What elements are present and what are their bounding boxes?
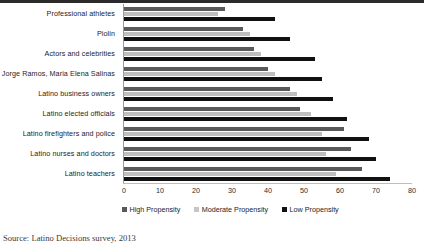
bar-group	[124, 104, 412, 124]
category-axis-labels: Professional athletesPiolinActors and ce…	[0, 4, 119, 184]
legend-swatch-high-icon	[122, 207, 127, 212]
category-label: Latino firefighters and police	[23, 130, 115, 138]
chart-figure: Professional athletesPiolinActors and ce…	[0, 0, 424, 248]
bar-high	[124, 167, 362, 171]
value-axis-ticks: 01020304050607080	[0, 186, 424, 200]
bar-low	[124, 97, 333, 101]
bar-low	[124, 137, 369, 141]
bar-low	[124, 57, 315, 61]
bar-moderate	[124, 132, 322, 136]
bar-low	[124, 117, 347, 121]
source-note: Source: Latino Decisions survey, 2013	[3, 233, 136, 243]
bar-high	[124, 67, 268, 71]
bar-moderate	[124, 152, 326, 156]
bar-low	[124, 17, 275, 21]
x-tick-label: 50	[300, 186, 308, 195]
bar-moderate	[124, 32, 250, 36]
bar-low	[124, 37, 290, 41]
legend-label: Low Propensity	[290, 205, 339, 214]
bar-moderate	[124, 92, 297, 96]
category-label: Piolin	[97, 30, 115, 38]
legend-swatch-low-icon	[282, 207, 287, 212]
bar-high	[124, 87, 290, 91]
category-label: Latino elected officials	[42, 110, 115, 118]
legend-item-moderate[interactable]: Moderate Propensity	[194, 205, 268, 214]
bar-moderate	[124, 112, 311, 116]
category-label: Latino teachers	[65, 170, 115, 178]
bar-group	[124, 24, 412, 44]
x-tick-label: 20	[192, 186, 200, 195]
category-label: Professional athletes	[47, 10, 115, 18]
bar-group	[124, 84, 412, 104]
legend-label: High Propensity	[130, 205, 181, 214]
bar-high	[124, 47, 254, 51]
top-divider	[0, 0, 424, 3]
legend-item-high[interactable]: High Propensity	[122, 205, 180, 214]
bar-low	[124, 77, 322, 81]
category-label: Actors and celebrities	[45, 50, 115, 58]
bar-group	[124, 44, 412, 64]
x-tick-label: 70	[372, 186, 380, 195]
bar-moderate	[124, 72, 275, 76]
bar-low	[124, 157, 376, 161]
bar-low	[124, 177, 390, 181]
bar-high	[124, 27, 243, 31]
x-tick-label: 60	[336, 186, 344, 195]
bar-moderate	[124, 12, 218, 16]
bar-group	[124, 144, 412, 164]
chart-plot-area: Professional athletesPiolinActors and ce…	[0, 4, 424, 184]
bars-container	[123, 4, 412, 184]
bar-high	[124, 147, 351, 151]
x-tick-label: 30	[228, 186, 236, 195]
x-tick-label: 40	[264, 186, 272, 195]
bar-group	[124, 124, 412, 144]
legend-label: Moderate Propensity	[202, 205, 268, 214]
bar-group	[124, 64, 412, 84]
category-label: Latino nurses and doctors	[30, 150, 115, 158]
legend-swatch-moderate-icon	[194, 207, 199, 212]
chart-legend: High PropensityModerate PropensityLow Pr…	[0, 201, 424, 217]
category-label: Jorge Ramos, Maria Elena Salinas	[2, 70, 115, 78]
legend-item-low[interactable]: Low Propensity	[282, 205, 339, 214]
bar-high	[124, 127, 344, 131]
bar-high	[124, 7, 225, 11]
bar-group	[124, 4, 412, 24]
bar-moderate	[124, 52, 261, 56]
bar-group	[124, 164, 412, 184]
x-tick-label: 10	[156, 186, 164, 195]
x-tick-label: 80	[408, 186, 416, 195]
bar-moderate	[124, 172, 336, 176]
category-label: Latino business owners	[38, 90, 115, 98]
x-tick-label: 0	[122, 186, 126, 195]
bar-high	[124, 107, 300, 111]
